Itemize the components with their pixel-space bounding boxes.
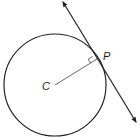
point-label: P	[103, 50, 111, 62]
circle-tangent-diagram: C P	[0, 0, 140, 138]
tangent-line	[63, 2, 136, 122]
center-label: C	[42, 80, 50, 92]
